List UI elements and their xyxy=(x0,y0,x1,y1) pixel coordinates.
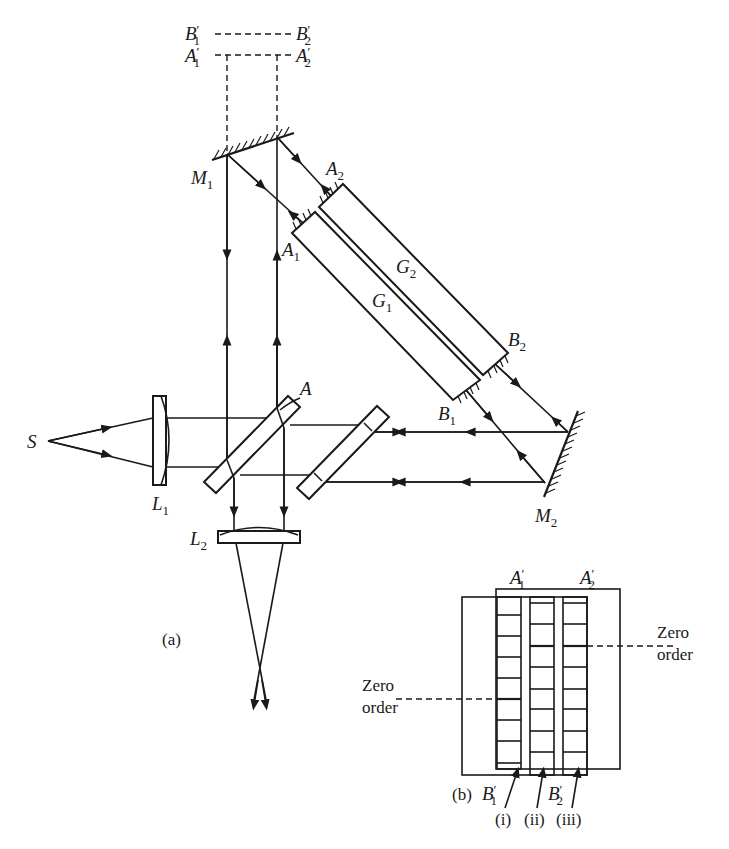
label-b1: B1 xyxy=(438,403,456,428)
diagonal-rays-lower xyxy=(466,364,568,483)
lens-l1 xyxy=(153,396,169,485)
panel-b: A′1 A′2 xyxy=(362,566,693,829)
beam-splitter-2 xyxy=(297,406,389,499)
label-a1-prime: A′1 xyxy=(183,44,200,70)
column-pointers xyxy=(505,772,578,808)
lens-l2 xyxy=(218,528,300,544)
fringes-column-i xyxy=(497,615,521,763)
column-i xyxy=(497,597,521,769)
frame-a xyxy=(496,589,620,769)
label-b2: B2 xyxy=(508,329,526,354)
label-b-b1-prime: B′1 xyxy=(482,782,497,808)
label-source: S xyxy=(27,431,37,452)
label-b-a1-prime: A′1 xyxy=(508,566,525,592)
output-dashed-frame xyxy=(215,34,292,154)
label-a2: A2 xyxy=(324,158,344,183)
column-label-iii: (iii) xyxy=(556,810,582,829)
label-a: A xyxy=(298,378,312,399)
mirror-m2 xyxy=(544,411,585,497)
column-label-i: (i) xyxy=(495,810,511,829)
mirror-m1 xyxy=(212,127,294,160)
source-rays xyxy=(48,418,153,467)
panel-a: B′1 B′2 A′1 A′2 M1 xyxy=(27,22,585,705)
label-l2: L2 xyxy=(189,528,207,553)
zero-order-label-right-2: order xyxy=(657,645,693,664)
label-a1: A1 xyxy=(280,239,300,264)
label-b-b2-prime: B′2 xyxy=(548,782,563,808)
zero-order-label-left-1: Zero xyxy=(362,676,394,695)
fringes-column-iii xyxy=(563,603,587,752)
zero-order-label-right-1: Zero xyxy=(657,623,689,642)
plate-hatching xyxy=(293,182,508,403)
caption-a: (a) xyxy=(162,630,181,649)
label-a2-prime: A′2 xyxy=(294,44,311,70)
column-label-ii: (ii) xyxy=(524,810,545,829)
zero-order-label-left-2: order xyxy=(362,698,398,717)
focus-rays xyxy=(236,543,283,705)
beam-splitter-1 xyxy=(204,396,300,493)
label-m2: M2 xyxy=(534,505,557,530)
fringes-column-ii xyxy=(530,603,554,752)
label-l1: L1 xyxy=(151,493,169,518)
jamin-interferometer-diagram: B′1 B′2 A′1 A′2 M1 xyxy=(0,0,729,849)
caption-b: (b) xyxy=(452,785,472,804)
label-m1: M1 xyxy=(190,167,213,192)
label-b-a2-prime: A′2 xyxy=(578,566,595,592)
